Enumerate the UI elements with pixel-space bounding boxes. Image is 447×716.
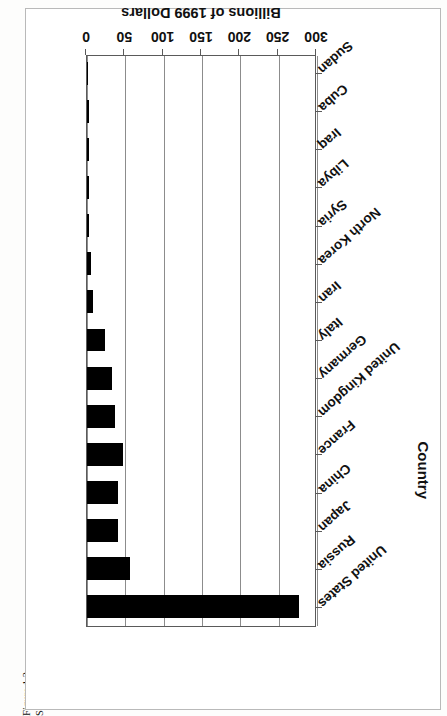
- bar-slot: [87, 169, 315, 207]
- bar-germany: [87, 367, 112, 390]
- scanned-page: Figure 1.2 Spending on National Defense …: [0, 0, 447, 716]
- category-axis-title: Country: [415, 442, 432, 460]
- bar-series: [87, 56, 315, 626]
- bar-slot: [87, 550, 315, 588]
- bar-russia: [87, 557, 130, 580]
- bar-iraq: [87, 138, 89, 161]
- bar-slot: [87, 435, 315, 473]
- bar-france: [87, 443, 123, 466]
- value-tick: [238, 49, 239, 55]
- bar-libya: [87, 176, 89, 199]
- value-tick: [277, 49, 278, 55]
- category-tick: [316, 149, 322, 150]
- bar-china: [87, 481, 118, 504]
- category-label-china: China: [315, 460, 353, 496]
- bar-slot: [87, 359, 315, 397]
- bar-italy: [87, 329, 105, 352]
- bar-slot: [87, 512, 315, 550]
- value-tick-label: 250: [266, 29, 289, 45]
- category-axis: United StatesRussiaJapanChinaFranceUnite…: [316, 55, 326, 627]
- bar-slot: [87, 588, 315, 626]
- bar-slot: [87, 54, 315, 92]
- bar-slot: [87, 397, 315, 435]
- rotated-chart-canvas: 050100150200250300 Billions of 1999 Doll…: [26, 9, 440, 709]
- category-label-france: France: [315, 418, 358, 459]
- value-tick: [85, 49, 86, 55]
- value-tick-label: 0: [82, 29, 90, 45]
- value-tick-label: 50: [117, 29, 133, 45]
- category-label-syria: Syria: [315, 196, 350, 229]
- bar-slot: [87, 130, 315, 168]
- value-tick-label: 300: [304, 29, 327, 45]
- bar-slot: [87, 92, 315, 130]
- value-tick: [162, 49, 163, 55]
- value-axis: 050100150200250300: [86, 45, 316, 55]
- bar-sudan: [87, 62, 88, 85]
- value-tick: [123, 49, 124, 55]
- category-label-libya: Libya: [315, 157, 351, 192]
- value-tick-label: 100: [151, 29, 174, 45]
- bar-slot: [87, 245, 315, 283]
- value-tick-label: 150: [189, 29, 212, 45]
- chart-object: 050100150200250300 Billions of 1999 Doll…: [25, 8, 441, 710]
- category-label-japan: Japan: [315, 497, 354, 534]
- bar-slot: [87, 283, 315, 321]
- bar-slot: [87, 207, 315, 245]
- category-label-cuba: Cuba: [315, 82, 350, 116]
- bar-syria: [87, 214, 89, 237]
- value-tick-label: 200: [228, 29, 251, 45]
- bar-north-korea: [87, 252, 91, 275]
- bar-slot: [87, 474, 315, 512]
- value-axis-title: Billions of 1999 Dollars: [86, 5, 316, 21]
- bar-united-states: [87, 596, 299, 619]
- category-tick: [316, 187, 322, 188]
- plot-area: [86, 55, 316, 627]
- bar-iran: [87, 291, 93, 314]
- bar-cuba: [87, 100, 89, 123]
- bar-japan: [87, 519, 118, 542]
- bar-slot: [87, 321, 315, 359]
- bar-united-kingdom: [87, 405, 115, 428]
- value-tick: [200, 49, 201, 55]
